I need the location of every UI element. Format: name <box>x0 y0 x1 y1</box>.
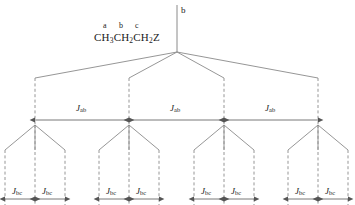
formula-seg-4: Z <box>153 31 160 43</box>
j-bc-label-2-2: Jbc <box>136 187 146 197</box>
j-subscript: bc <box>46 189 52 196</box>
j-subscript: bc <box>16 189 22 196</box>
branch-bc-2-1 <box>99 125 129 150</box>
branch-bc-1-3 <box>35 125 65 150</box>
formula-seg-2: CH <box>114 31 130 43</box>
splitting-tree-diagram: b a b c CH3CH2CH2Z Jab Jab Jab Jbc Jbc J… <box>0 0 355 205</box>
j-subscript: ab <box>80 106 86 113</box>
tree-svg <box>0 0 355 205</box>
molecule-formula: CH3CH2CH2Z <box>94 32 160 44</box>
j-subscript: ab <box>269 106 275 113</box>
branch-bc-2-3 <box>129 125 159 150</box>
j-bc-label-1-1: Jbc <box>12 187 22 197</box>
root-label-b: b <box>181 6 186 15</box>
j-subscript: bc <box>205 189 211 196</box>
j-subscript: bc <box>235 189 241 196</box>
branch-bc-3-3 <box>224 125 254 150</box>
branch-bc-1-1 <box>5 125 35 150</box>
first-split-branches <box>35 52 318 78</box>
atom-label-c: c <box>135 22 139 30</box>
j-subscript: bc <box>329 189 335 196</box>
j-bc-label-4-2: Jbc <box>325 187 335 197</box>
branch-bc-4-1 <box>288 125 318 150</box>
atom-label-a: a <box>103 22 107 30</box>
j-bc-label-2-1: Jbc <box>106 187 116 197</box>
branch-ab-2 <box>129 52 177 78</box>
branch-bc-3-1 <box>194 125 224 150</box>
j-ab-label-1: Jab <box>76 104 86 114</box>
formula-seg-3: CH <box>133 31 149 43</box>
j-subscript: ab <box>174 106 180 113</box>
j-bc-label-4-1: Jbc <box>295 187 305 197</box>
j-subscript: bc <box>140 189 146 196</box>
j-subscript: bc <box>299 189 305 196</box>
j-bc-label-3-2: Jbc <box>231 187 241 197</box>
j-bc-label-1-2: Jbc <box>42 187 52 197</box>
branch-bc-4-3 <box>318 125 348 150</box>
j-subscript: bc <box>110 189 116 196</box>
j-ab-label-2: Jab <box>170 104 180 114</box>
branch-ab-4 <box>177 52 318 78</box>
formula-seg-1: CH <box>94 31 110 43</box>
atom-label-b: b <box>119 22 123 30</box>
j-bc-label-3-1: Jbc <box>201 187 211 197</box>
j-ab-label-3: Jab <box>265 104 275 114</box>
first-split-verticals <box>35 78 318 125</box>
branch-ab-1 <box>35 52 177 78</box>
